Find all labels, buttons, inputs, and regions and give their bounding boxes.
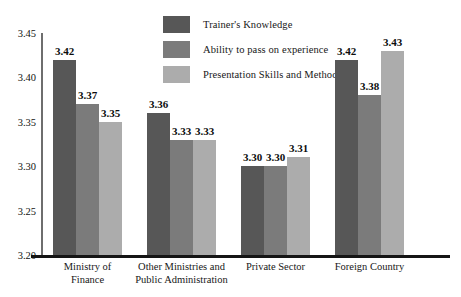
x-axis-label-line: Foreign Country bbox=[300, 260, 440, 273]
bar-value-label: 3.43 bbox=[383, 36, 402, 48]
bar-group: 3.303.303.31 bbox=[241, 33, 310, 255]
bar-value-label: 3.42 bbox=[337, 45, 356, 57]
y-axis-tick-label: 3.20 bbox=[18, 250, 36, 261]
bar-group: 3.363.333.33 bbox=[147, 33, 216, 255]
bar[interactable]: 3.35 bbox=[99, 122, 122, 255]
y-axis-tick-label: 3.40 bbox=[18, 72, 36, 83]
bar-value-label: 3.38 bbox=[360, 80, 379, 92]
bar-value-label: 3.36 bbox=[149, 98, 168, 110]
bar[interactable]: 3.38 bbox=[358, 95, 381, 255]
bar[interactable]: 3.42 bbox=[335, 60, 358, 255]
bar-group: 3.423.383.43 bbox=[335, 33, 404, 255]
y-axis-tick-label: 3.25 bbox=[18, 205, 36, 216]
bar[interactable]: 3.43 bbox=[381, 51, 404, 255]
x-axis-label-line: Public Administration bbox=[112, 273, 252, 286]
y-axis-tick-label: 3.30 bbox=[18, 161, 36, 172]
bar[interactable]: 3.33 bbox=[193, 140, 216, 255]
y-axis-tick-label: 3.45 bbox=[18, 28, 36, 39]
bar[interactable]: 3.31 bbox=[287, 157, 310, 255]
y-axis-tick-label: 3.35 bbox=[18, 116, 36, 127]
bar-group: 3.423.373.35 bbox=[53, 33, 122, 255]
bar-chart: Trainer's Knowledge Ability to pass on e… bbox=[0, 0, 461, 297]
bar[interactable]: 3.30 bbox=[264, 166, 287, 255]
bar[interactable]: 3.37 bbox=[76, 104, 99, 255]
legend-swatch-icon bbox=[163, 16, 190, 33]
bar-value-label: 3.30 bbox=[243, 151, 262, 163]
bar[interactable]: 3.36 bbox=[147, 113, 170, 255]
x-axis-label: Foreign Country bbox=[300, 260, 440, 273]
bar-value-label: 3.31 bbox=[289, 142, 308, 154]
bar[interactable]: 3.42 bbox=[53, 60, 76, 255]
legend-label: Trainer's Knowledge bbox=[203, 19, 292, 30]
bar-value-label: 3.33 bbox=[172, 125, 191, 137]
bar-value-label: 3.42 bbox=[55, 45, 74, 57]
y-axis-line bbox=[41, 33, 43, 255]
bar[interactable]: 3.33 bbox=[170, 140, 193, 255]
bar-value-label: 3.33 bbox=[195, 125, 214, 137]
bar[interactable]: 3.30 bbox=[241, 166, 264, 255]
bar-value-label: 3.30 bbox=[266, 151, 285, 163]
x-axis-line bbox=[31, 255, 450, 258]
bar-value-label: 3.37 bbox=[78, 89, 97, 101]
bar-value-label: 3.35 bbox=[101, 107, 120, 119]
plot-area: 3.203.253.303.353.403.45 3.423.373.353.3… bbox=[41, 33, 450, 255]
